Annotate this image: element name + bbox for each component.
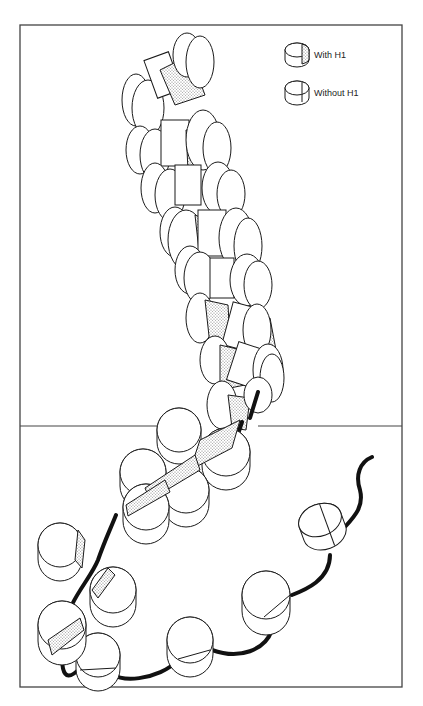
condensed-fiber bbox=[122, 33, 284, 430]
zigzag-cluster bbox=[120, 408, 250, 544]
chromatin-figure: With H1 Without H1 bbox=[0, 0, 423, 706]
legend-icon-without-h1 bbox=[285, 81, 309, 105]
legend-label-with-h1: With H1 bbox=[314, 50, 346, 60]
legend-label-without-h1: Without H1 bbox=[314, 88, 359, 98]
figure-canvas bbox=[0, 0, 423, 706]
nucleosome-beads bbox=[38, 497, 351, 691]
legend bbox=[285, 43, 309, 105]
legend-icon-with-h1 bbox=[285, 43, 309, 67]
